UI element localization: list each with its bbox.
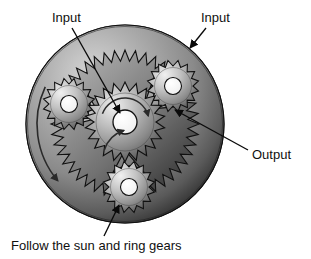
planet-gear-bottom-pin-bore bbox=[121, 179, 138, 196]
label-input-left: Input bbox=[52, 10, 81, 25]
planetary-gear-diagram: Input Input Output Follow the sun and ri… bbox=[0, 0, 311, 259]
planet-gear-upper-left-pin-bore bbox=[61, 96, 78, 113]
sun-gear-bore bbox=[113, 110, 137, 134]
label-input-right: Input bbox=[201, 10, 230, 25]
figure-caption: Follow the sun and ring gears bbox=[11, 238, 182, 253]
label-output: Output bbox=[252, 147, 291, 162]
figure-canvas: Input Input Output Follow the sun and ri… bbox=[0, 0, 311, 259]
planet-gear-upper-right-pin-bore bbox=[165, 78, 182, 95]
